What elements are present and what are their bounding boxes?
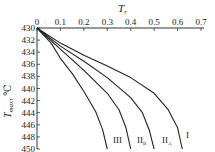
y-tick-label: 446	[22, 120, 36, 130]
x-tick-label: 0.2	[78, 17, 89, 27]
x-tick-label: 0.7	[195, 17, 207, 27]
y-tick-label: 442	[22, 96, 36, 106]
x-tick-label: 0.1	[55, 17, 66, 27]
curves	[37, 28, 182, 149]
y-tick-label: 450	[22, 144, 36, 152]
y-tick-label: 440	[22, 84, 36, 94]
curve-iia	[37, 28, 154, 149]
y-tick-label: 436	[22, 59, 36, 69]
y-tick-label: 448	[22, 132, 36, 142]
curve-label-I: I	[186, 130, 189, 140]
chart: 00.10.20.30.40.50.60.7430432434436438440…	[0, 0, 215, 152]
x-tick-label: 0.6	[172, 17, 184, 27]
x-tick-label: 0.4	[125, 17, 137, 27]
y-tick-label: 430	[22, 23, 36, 33]
x-tick-label: 0.3	[102, 17, 114, 27]
x-axis-label: Tr	[118, 2, 127, 16]
x-tick-label: 0	[35, 17, 40, 27]
y-tick-label: 434	[22, 47, 36, 57]
y-tick-label: 432	[22, 35, 36, 45]
curve-label-IIB: IIB	[137, 135, 147, 146]
curve-i	[37, 28, 182, 149]
curve-iib	[37, 28, 131, 149]
y-axis-label: Tmax, ℃	[2, 85, 15, 118]
curve-iii	[37, 28, 107, 149]
curve-label-III: III	[113, 135, 122, 145]
curve-label-IIA: IIA	[162, 135, 172, 146]
x-tick-label: 0.5	[149, 17, 161, 27]
y-tick-label: 438	[22, 71, 36, 81]
y-tick-label: 444	[22, 108, 36, 118]
chart-svg: 00.10.20.30.40.50.60.7430432434436438440…	[0, 0, 215, 152]
